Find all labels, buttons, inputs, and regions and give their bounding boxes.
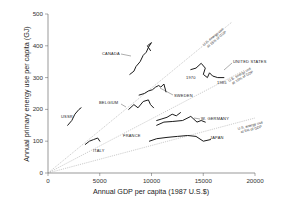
y-tick-label: 100: [33, 137, 44, 144]
label-canada: CANADA: [102, 51, 120, 56]
reference-lines: U.S. energy use at 15% of GDP U.S. energ…: [48, 22, 264, 173]
series-italy: [85, 138, 100, 144]
label-ussr: USSR: [61, 114, 73, 119]
x-tick-label: 0: [46, 177, 50, 184]
x-ticks: 0 5000 10000 15000 20000: [46, 173, 264, 184]
y-tick-label: 300: [33, 74, 44, 81]
ref-label-10pct: U.S. energy use at 10% of GDP: [228, 66, 255, 86]
label-w-germany: W. GERMANY: [201, 116, 229, 121]
y-axis-title: Annual primary energy use per capita (GJ…: [22, 26, 31, 161]
energy-gdp-chart: 0 100 200 300 400 500 0 5000 10000 15000…: [0, 0, 289, 209]
label-italy: ITALY: [93, 148, 105, 153]
label-year-1970: 1970: [186, 75, 196, 80]
series-sweden: [139, 84, 166, 95]
label-year-1985: 1985: [217, 80, 227, 85]
x-tick-label: 10000: [143, 177, 161, 184]
axes: 0 100 200 300 400 500 0 5000 10000 15000…: [22, 10, 264, 196]
ref-line-10pct: [48, 70, 245, 173]
label-japan: JAPAN: [210, 135, 224, 140]
x-tick-label: 5000: [93, 177, 107, 184]
y-tick-label: 500: [33, 10, 44, 17]
x-tick-label: 15000: [195, 177, 213, 184]
x-tick-label: 20000: [246, 177, 264, 184]
series-japan: [149, 136, 210, 142]
ref-label-15pct: U.S. energy use at 15% of GDP: [202, 27, 227, 50]
ref-label-5pct: U.S. energy use at 5% of GDP: [237, 120, 264, 134]
label-france: FRANCE: [123, 133, 141, 138]
label-sweden: SWEDEN: [174, 93, 193, 98]
label-united-states: UNITED STATES: [233, 59, 267, 64]
x-axis-title: Annual GDP per capita (1987 U.S.$): [93, 187, 209, 196]
series-france: [157, 113, 181, 121]
y-ticks: 0 100 200 300 400 500: [33, 10, 48, 176]
series-canada: [130, 43, 152, 75]
y-tick-label: 0: [40, 169, 44, 176]
label-belgium: BELGIUM: [99, 100, 118, 105]
series-united-states: [191, 63, 224, 77]
y-tick-label: 400: [33, 42, 44, 49]
series-belgium: [129, 100, 154, 110]
ref-line-5pct: [48, 118, 255, 173]
y-tick-label: 200: [33, 105, 44, 112]
